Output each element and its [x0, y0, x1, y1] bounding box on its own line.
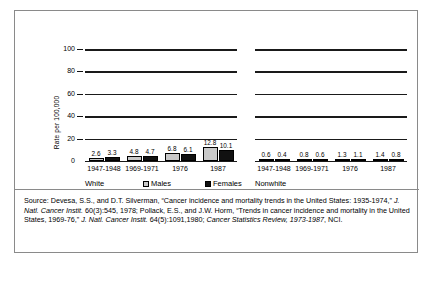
legend-item-males: Males — [143, 179, 171, 188]
y-tick-label: 60 — [49, 90, 75, 97]
bar-females — [389, 159, 404, 161]
bar-females — [143, 156, 158, 161]
bar-females — [351, 159, 366, 161]
x-tick-label: 1969-1971 — [123, 165, 161, 173]
y-tick-label: 40 — [49, 112, 75, 119]
source-journal-title: J. Natl. Cancer Instit. — [81, 215, 148, 224]
bar-value-label: 0.6 — [309, 151, 332, 158]
x-tick-label: 1976 — [161, 165, 199, 173]
group-label-nonwhite: Nonwhite — [255, 179, 286, 188]
x-tick-label: 1947-1948 — [85, 165, 123, 173]
source-text: 64(5):1091,1980; — [148, 215, 207, 224]
bar-males — [259, 159, 274, 161]
bar-males — [203, 147, 218, 161]
bar-males — [127, 156, 142, 161]
bar-males — [89, 158, 104, 161]
y-tick-mark — [77, 49, 83, 50]
bar-value-label: 4.7 — [139, 148, 162, 155]
bar-value-label: 10.1 — [215, 142, 238, 149]
bar-males — [297, 159, 312, 161]
source-text: Devesa, S.S., and D.T. Silverman, “Cance… — [49, 196, 394, 205]
source-text: , NCI. — [324, 215, 342, 224]
y-tick-label: 0 — [49, 157, 75, 164]
panel-nonwhite: 0.60.41947-19480.80.61969-19711.31.11976… — [255, 11, 407, 189]
bar-value-label: 6.1 — [177, 146, 200, 153]
bar-value-label: 0.8 — [385, 151, 408, 158]
bar-value-label: 0.4 — [271, 151, 294, 158]
y-tick-mark — [77, 139, 83, 140]
y-tick-label: 100 — [49, 45, 75, 52]
group-label-white: White — [85, 179, 104, 188]
bar-females — [313, 159, 328, 161]
source-block: Source: Devesa, S.S., and D.T. Silverman… — [15, 189, 419, 253]
bar-males — [373, 159, 388, 161]
legend-swatch-males — [143, 181, 149, 187]
bar-males — [335, 159, 350, 161]
x-tick-label: 1976 — [331, 165, 369, 173]
bar-females — [275, 159, 290, 161]
legend-label-males: Males — [151, 179, 171, 188]
y-tick-label: 80 — [49, 67, 75, 74]
figure-frame: Rate per 100,000 020406080100 2.63.31947… — [14, 10, 418, 253]
bar-females — [219, 150, 234, 161]
bar-females — [105, 157, 120, 161]
x-tick-label: 1987 — [369, 165, 407, 173]
legend-label-females: Females — [213, 179, 242, 188]
bar-females — [181, 154, 196, 161]
chart-plot-area: Rate per 100,000 020406080100 2.63.31947… — [15, 11, 419, 189]
y-tick-mark — [77, 116, 83, 117]
bar-males — [165, 153, 180, 161]
source-prefix: Source: — [24, 196, 49, 205]
x-tick-label: 1947-1948 — [255, 165, 293, 173]
y-tick-label: 20 — [49, 135, 75, 142]
source-citation: Source: Devesa, S.S., and D.T. Silverman… — [24, 196, 410, 225]
legend-swatch-females — [205, 181, 211, 187]
y-tick-mark — [77, 94, 83, 95]
x-tick-label: 1987 — [199, 165, 237, 173]
legend-item-females: Females — [205, 179, 242, 188]
x-tick-label: 1969-1971 — [293, 165, 331, 173]
bar-value-label: 3.3 — [101, 149, 124, 156]
panel-white: 2.63.31947-19484.84.71969-19716.86.11976… — [85, 11, 237, 189]
source-journal-title: Cancer Statistics Review, 1973-1987 — [207, 215, 324, 224]
y-tick-mark — [77, 71, 83, 72]
bar-value-label: 1.1 — [347, 151, 370, 158]
